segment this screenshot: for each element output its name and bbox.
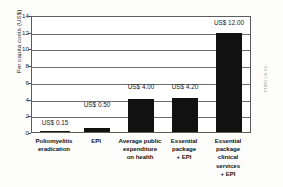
y-tick-label-0: 0: [11, 129, 29, 136]
bar-epi: [84, 128, 110, 132]
y-tick-label-8: 8: [11, 62, 29, 69]
y-tick-label-4: 4: [11, 96, 29, 103]
y-tick-label-12: 12: [11, 29, 29, 36]
y-tick-label-14: 14: [11, 12, 29, 19]
bar-value-polio: US$ 0.15: [42, 119, 69, 126]
category-line: + EPI: [201, 170, 255, 178]
y-tick-label-10: 10: [11, 46, 29, 53]
y-tick-mark-0: [28, 133, 31, 134]
bar-value-essential-epi: US$ 4.20: [172, 83, 199, 90]
bar-essential-epi: [172, 98, 198, 133]
bar-avg-public-exp: [128, 99, 154, 132]
plot-area: US$ 0.15 US$ 0.50 US$ 4.00 US$ 4.20 US$ …: [31, 16, 251, 133]
category-label-essential-clinical-epi: Essential package clinical services + EP…: [201, 137, 255, 178]
y-tick-label-6: 6: [11, 79, 29, 86]
bar-value-epi: US$ 0.50: [84, 101, 111, 108]
category-line: services: [201, 162, 255, 170]
y-tick-label-2: 2: [11, 113, 29, 120]
bar-polio: [40, 131, 70, 132]
bar-essential-clinical-epi: [216, 33, 242, 132]
bar-value-avg-public-exp: US$ 4.00: [128, 83, 155, 90]
category-line: clinical: [201, 153, 255, 161]
category-line: eradication: [21, 145, 87, 153]
category-line: package: [201, 145, 255, 153]
bar-chart-figure: Per capita costs (US$) 0 2 4 6 8 10 12 1…: [0, 0, 283, 187]
category-line: Essential: [201, 137, 255, 145]
figure-credit: PUBS Ch.V1: [263, 66, 268, 92]
bar-value-essential-clinical-epi: US$ 12.00: [214, 19, 244, 26]
